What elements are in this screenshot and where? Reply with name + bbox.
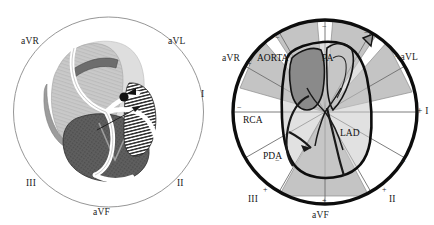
aorta-shape [290,48,325,110]
left-lead-label-ii: II [177,178,184,188]
right-lead-label-iii: III [248,194,258,204]
left-lead-label-avf: aVF [93,207,110,217]
polarity-minus-upper-left: − [275,33,280,42]
polarity-minus-left: − [237,103,242,112]
polarity-plus-lower-left: + [263,185,268,194]
right-lead-label-avr: aVR [222,53,240,63]
left-lead-label-i: I [201,89,204,99]
label-rca: RCA [243,115,263,125]
polarity-minus-lower-right: − [401,157,406,166]
polarity-minus-top: − [322,22,327,31]
hexaxial-reference-panel: − − − − − − + + + + AORTA PA RCA LAD PDA… [217,0,434,225]
label-pda: PDA [263,151,282,161]
polarity-plus-avr: + [247,59,252,68]
right-lead-label-avf: aVF [312,210,329,220]
label-lad: LAD [340,128,360,138]
right-lead-label-ii: II [389,194,396,204]
heart-cross-section [44,41,157,182]
polarity-plus-bottom: + [322,196,327,205]
polarity-plus-lower-right: + [382,185,387,194]
left-lead-label-iii: III [26,178,36,188]
label-pa: PA [322,53,333,63]
right-lead-label-avl: +aVL [395,52,418,62]
polarity-minus-upper-right: − [364,28,369,37]
label-aorta: AORTA [257,53,289,63]
figure-root: aVR aVL I II III aVF [0,0,434,225]
right-lead-label-i: + I [417,106,429,116]
left-lead-label-avr: aVR [21,36,39,46]
heart-anatomy-panel: aVR aVL I II III aVF [0,0,217,225]
left-lead-label-avl: aVL [168,36,185,46]
